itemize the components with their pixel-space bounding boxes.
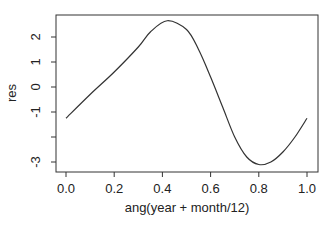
- x-tick-label: 0.2: [105, 181, 123, 196]
- x-axis-label: ang(year + month/12): [125, 200, 250, 215]
- y-tick-label: 1: [28, 58, 43, 65]
- x-axis: 0.00.20.40.60.81.0: [57, 172, 316, 196]
- x-tick-label: 0.8: [250, 181, 268, 196]
- y-tick-label: 2: [28, 33, 43, 40]
- x-tick-label: 1.0: [298, 181, 316, 196]
- x-tick-label: 0.0: [57, 181, 75, 196]
- series-line: [66, 21, 307, 165]
- x-tick-label: 0.4: [153, 181, 171, 196]
- y-tick-label: 0: [28, 83, 43, 90]
- chart: -3-1012 0.00.20.40.60.81.0 ang(year + mo…: [0, 0, 334, 230]
- x-tick-label: 0.6: [202, 181, 220, 196]
- y-tick-label: -1: [28, 106, 43, 118]
- y-axis-label: res: [4, 83, 19, 102]
- y-axis: -3-1012: [28, 33, 56, 167]
- plot-frame: [56, 15, 318, 172]
- y-tick-label: -3: [28, 156, 43, 168]
